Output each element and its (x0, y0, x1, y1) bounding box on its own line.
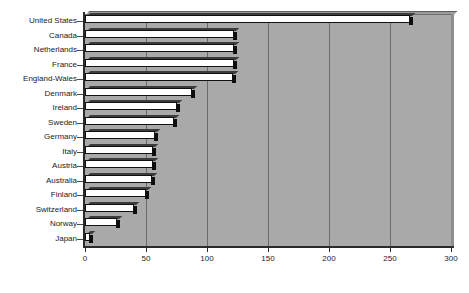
x-axis-tick-label: 300 (431, 254, 469, 263)
bar (85, 15, 410, 23)
category-label: France (0, 61, 77, 69)
category-label: Italy (0, 148, 77, 156)
y-axis-tick (77, 123, 83, 124)
bar (85, 160, 153, 168)
bar (85, 73, 233, 81)
x-axis-tick (390, 247, 391, 252)
bar (85, 44, 234, 52)
bar (85, 59, 234, 67)
bar (85, 30, 234, 38)
x-axis-tick-label: 100 (187, 254, 227, 263)
category-label: Denmark (0, 90, 77, 98)
bar (85, 146, 153, 154)
x-axis-tick-label: 50 (126, 254, 166, 263)
category-label: Canada (0, 32, 77, 40)
y-axis-tick (77, 65, 83, 66)
x-axis-tick (207, 247, 208, 252)
bar (85, 204, 134, 212)
category-label: Austria (0, 162, 77, 170)
category-axis-labels: United StatesCanadaNetherlandsFranceEngl… (0, 14, 77, 246)
y-axis-tick (77, 36, 83, 37)
gridline (268, 15, 269, 247)
y-axis-tick (77, 79, 83, 80)
category-label: Norway (0, 220, 77, 228)
bar (85, 189, 146, 197)
bar (85, 233, 90, 241)
category-label: Japan (0, 235, 77, 243)
category-label: Germany (0, 133, 77, 141)
x-axis-tick (85, 247, 86, 252)
category-label: Netherlands (0, 46, 77, 54)
y-axis-tick (77, 50, 83, 51)
x-axis-tick (268, 247, 269, 252)
category-label: Switzerland (0, 206, 77, 214)
x-axis-tick-label: 150 (248, 254, 288, 263)
bar (85, 117, 174, 125)
plot-area-right-bevel (451, 14, 454, 247)
category-label: Australia (0, 177, 77, 185)
y-axis-tick (77, 210, 83, 211)
gridline (329, 15, 330, 247)
y-axis-tick (77, 152, 83, 153)
bar-chart: United StatesCanadaNetherlandsFranceEngl… (0, 0, 469, 293)
category-label: England-Wales (0, 75, 77, 83)
x-axis-tick-label: 250 (370, 254, 410, 263)
y-axis-tick (77, 181, 83, 182)
y-axis-tick (77, 137, 83, 138)
category-label: Sweden (0, 119, 77, 127)
x-axis-tick-label: 200 (309, 254, 349, 263)
category-label: Finland (0, 191, 77, 199)
x-axis-tick (451, 247, 452, 252)
bar (85, 102, 177, 110)
bar (85, 131, 155, 139)
gridline (390, 15, 391, 247)
bar (85, 218, 117, 226)
x-axis-tick (146, 247, 147, 252)
y-axis-tick (77, 166, 83, 167)
x-axis-tick-label: 0 (65, 254, 105, 263)
category-label: Ireland (0, 104, 77, 112)
bar (85, 175, 152, 183)
y-axis-tick (77, 224, 83, 225)
y-axis-tick (77, 195, 83, 196)
y-axis-tick (77, 239, 83, 240)
bar (85, 88, 192, 96)
y-axis-tick (77, 108, 83, 109)
y-axis-tick (77, 21, 83, 22)
category-label: United States (0, 17, 77, 25)
y-axis-tick (77, 94, 83, 95)
x-axis-tick (329, 247, 330, 252)
